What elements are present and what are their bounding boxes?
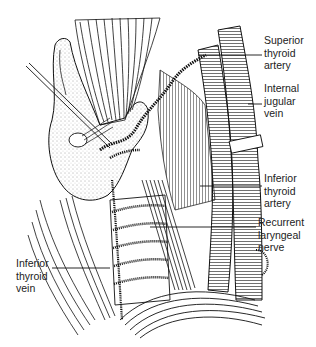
label-inferior-thyroid-vein: Inferior thyroid vein (16, 257, 49, 295)
label-internal-jugular-vein: Internal jugular vein (264, 82, 299, 120)
thyroid-anatomy-figure: Superior thyroid artery Internal jugular… (0, 0, 316, 347)
label-recurrent-laryngeal-nerve: Recurrent laryngeal nerve (258, 216, 304, 254)
label-inferior-thyroid-artery: Inferior thyroid artery (264, 172, 297, 210)
label-superior-thyroid-artery: Superior thyroid artery (264, 34, 304, 72)
